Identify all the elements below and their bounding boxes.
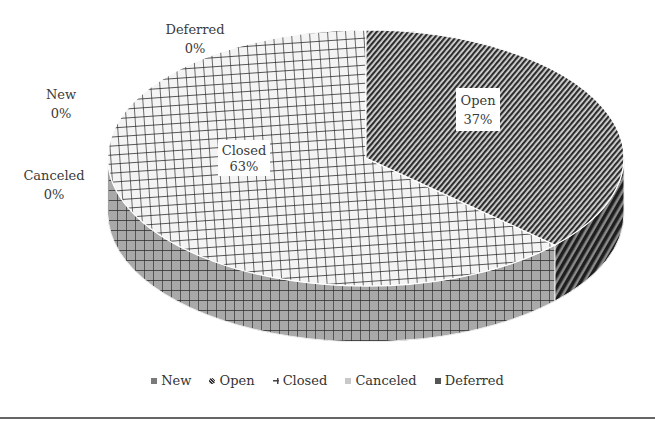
- pie-top: [108, 30, 624, 286]
- label-open-name: Open: [460, 93, 496, 108]
- legend-swatch-deferred-icon: [435, 378, 441, 384]
- legend-label-open: Open: [219, 373, 254, 388]
- label-closed-value: 63%: [230, 159, 259, 174]
- data-label-open: Open 37%: [456, 88, 500, 131]
- label-deferred-name: Deferred: [165, 22, 224, 37]
- legend-label-canceled: Canceled: [355, 373, 416, 388]
- data-label-deferred: Deferred 0%: [165, 22, 224, 56]
- data-label-new: New 0%: [46, 87, 76, 121]
- label-open-value: 37%: [464, 112, 493, 127]
- legend-item-closed: Closed: [273, 373, 328, 388]
- legend-swatch-canceled-icon: [345, 378, 351, 384]
- legend-swatch-open-icon: [209, 378, 215, 384]
- label-new-value: 0%: [51, 106, 72, 121]
- label-canceled-value: 0%: [44, 187, 65, 202]
- bottom-divider: [0, 417, 655, 419]
- label-closed-name: Closed: [222, 143, 267, 158]
- legend-item-open: Open: [209, 373, 254, 388]
- data-label-canceled: Canceled 0%: [23, 168, 84, 202]
- label-deferred-value: 0%: [185, 41, 206, 56]
- label-canceled-name: Canceled: [23, 168, 84, 183]
- chart-legend: New Open Closed Canceled Deferred: [0, 373, 655, 388]
- data-label-closed: Closed 63%: [218, 140, 270, 176]
- legend-label-deferred: Deferred: [445, 373, 504, 388]
- legend-label-closed: Closed: [283, 373, 328, 388]
- label-new-name: New: [46, 87, 76, 102]
- pie-chart-3d: Closed 63% Open 37% Deferred 0% New 0% C…: [0, 0, 655, 423]
- legend-item-new: New: [151, 373, 191, 388]
- legend-swatch-new-icon: [151, 378, 157, 384]
- legend-item-deferred: Deferred: [435, 373, 504, 388]
- legend-item-canceled: Canceled: [345, 373, 416, 388]
- legend-swatch-closed-icon: [273, 378, 279, 384]
- legend-label-new: New: [161, 373, 191, 388]
